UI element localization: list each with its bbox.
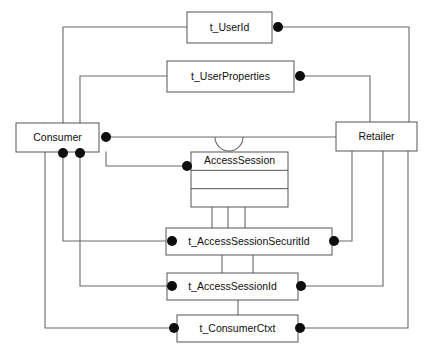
nodes-layer: t_UserIdt_UserPropertiesConsumerRetailer… xyxy=(16,12,417,342)
dot-securitid-right[interactable] xyxy=(329,236,339,246)
node-label-t_ConsumerCtxt: t_ConsumerCtxt xyxy=(200,322,276,334)
dot-accesssession-left[interactable] xyxy=(182,161,192,171)
dot-securitid-left[interactable] xyxy=(167,236,177,246)
uml-class-diagram: t_UserIdt_UserPropertiesConsumerRetailer… xyxy=(0,0,429,355)
node-t_UserProperties[interactable]: t_UserProperties xyxy=(167,61,294,92)
node-label-Consumer: Consumer xyxy=(33,131,82,143)
dot-consumerctxt-left[interactable] xyxy=(169,323,179,333)
diagram-canvas: t_UserIdt_UserPropertiesConsumerRetailer… xyxy=(0,0,429,355)
link-securitid-to-retailer xyxy=(334,151,352,241)
node-label-t_AccessSessionId: t_AccessSessionId xyxy=(188,280,277,292)
node-Consumer[interactable]: Consumer xyxy=(16,123,99,152)
node-t_AccessSessionSecuritId[interactable]: t_AccessSessionSecuritId xyxy=(166,228,332,255)
node-Retailer[interactable]: Retailer xyxy=(336,122,417,151)
line-jump-accesssession-top xyxy=(215,137,243,151)
node-t_ConsumerCtxt[interactable]: t_ConsumerCtxt xyxy=(177,315,298,342)
link-userproperties-to-retailer xyxy=(300,76,370,122)
link-consumer-to-accesssession xyxy=(106,152,187,166)
dot-sessionid-right[interactable] xyxy=(296,281,306,291)
link-sessionid-to-retailer xyxy=(301,151,383,286)
node-label-Retailer: Retailer xyxy=(358,130,395,142)
link-consumer-b2-to-sessionid xyxy=(80,153,167,286)
node-label-AccessSession: AccessSession xyxy=(204,154,275,166)
node-label-t_AccessSessionSecuritId: t_AccessSessionSecuritId xyxy=(188,235,310,247)
dot-t_UserId-right[interactable] xyxy=(273,22,283,32)
node-t_AccessSessionId[interactable]: t_AccessSessionId xyxy=(167,273,298,300)
dot-t_UserProperties-right[interactable] xyxy=(295,71,305,81)
dot-consumer-bottom-left[interactable] xyxy=(58,148,68,158)
dot-sessionid-left[interactable] xyxy=(167,281,177,291)
dot-consumer-right[interactable] xyxy=(101,132,111,142)
node-label-t_UserId: t_UserId xyxy=(210,21,250,33)
node-AccessSession[interactable]: AccessSession xyxy=(191,152,288,207)
node-label-t_UserProperties: t_UserProperties xyxy=(191,70,270,82)
dot-consumerctxt-right[interactable] xyxy=(295,323,305,333)
dot-consumer-bottom-right[interactable] xyxy=(75,148,85,158)
link-consumer-to-userproperties xyxy=(80,76,167,123)
node-t_UserId[interactable]: t_UserId xyxy=(187,12,272,43)
line-jump-layer xyxy=(215,137,243,151)
